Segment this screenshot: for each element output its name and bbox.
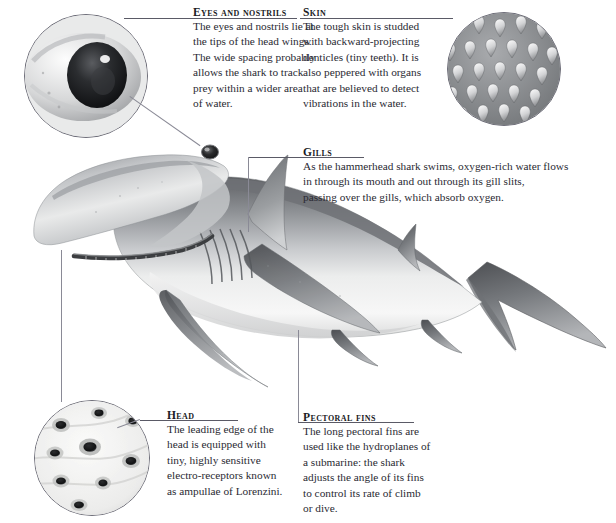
callout-head: Head The leading edge of the head is equ… [167,409,295,499]
leader-line-pectoral-fins [298,330,299,422]
text-line: that are believed to detect [303,81,443,96]
callout-body-pectoral-fins: The long pectoral fins are used like the… [303,424,453,516]
text-line: The wide spacing probably [193,50,313,65]
text-line: denticles (tiny teeth). It is [303,50,443,65]
text-line: to control its rate of climb [303,486,453,501]
text-line: the tips of the head wings. [193,34,313,49]
callout-eyes-and-nostrils: Eyes and nostrils The eyes and nostrils … [193,6,313,111]
callout-body-eyes-and-nostrils: The eyes and nostrils lie at the tips of… [193,19,313,111]
callout-heading-pectoral-fins: Pectoral fins [303,411,453,423]
text-line: The tough skin is studded [303,19,443,34]
text-line: passing over the gills, which absorb oxy… [303,190,611,205]
text-line: allows the shark to track [193,65,313,80]
text-line: The eyes and nostrils lie at [193,19,313,34]
text-line: As the hammerhead shark swims, oxygen-ri… [303,159,611,174]
text-line: a submarine: the shark [303,455,453,470]
callout-heading-head: Head [167,409,295,421]
text-line: electro-receptors known [167,468,295,483]
text-line: adjusts the angle of its fins [303,470,453,485]
text-line: in through its mouth and out through its… [303,174,611,189]
callout-heading-skin: Skin [303,6,443,18]
leader-line-gills [248,157,249,232]
callout-gills: Gills As the hammerhead shark swims, oxy… [303,146,611,205]
text-line: tiny, highly sensitive [167,453,295,468]
text-line: also peppered with organs [303,65,443,80]
text-line: used like the hydroplanes of [303,439,453,454]
callout-heading-gills: Gills [303,146,611,158]
text-line: or dive. [303,501,453,516]
skin-detail-inset [447,12,561,126]
callout-skin: Skin The tough skin is studded with back… [303,6,443,111]
illustrated-diagram-page: Eyes and nostrils The eyes and nostrils … [0,0,616,523]
callout-body-head: The leading edge of the head is equipped… [167,422,295,499]
text-line: vibrations in the water. [303,96,443,111]
callout-body-gills: As the hammerhead shark swims, oxygen-ri… [303,159,611,205]
text-line: The long pectoral fins are [303,424,453,439]
text-line: The leading edge of the [167,422,295,437]
callout-body-skin: The tough skin is studded with backward-… [303,19,443,111]
leader-line-head [61,250,62,402]
text-line: as ampullae of Lorenzini. [167,484,295,499]
ampullae-detail-inset [34,400,150,516]
text-line: with backward-projecting [303,34,443,49]
callout-pectoral-fins: Pectoral fins The long pectoral fins are… [303,411,453,516]
text-line: prey within a wider area [193,81,313,96]
eye-detail-inset [24,14,148,138]
callout-heading-eyes-and-nostrils: Eyes and nostrils [193,6,313,18]
text-line: of water. [193,96,313,111]
text-line: head is equipped with [167,437,295,452]
